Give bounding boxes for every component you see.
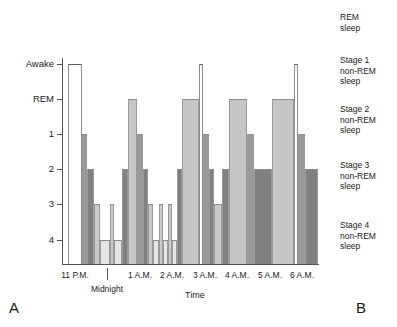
y-axis-tick <box>57 169 63 170</box>
y-axis-tick <box>57 64 63 65</box>
x-axis-line <box>62 264 319 265</box>
hypnogram-bar <box>114 240 122 264</box>
x-axis-title: Time <box>185 290 205 300</box>
x-axis-tick-midnight <box>107 268 108 280</box>
hypnogram-bar <box>298 134 305 264</box>
y-axis-label: 3 <box>49 199 54 209</box>
hypnogram-figure: AwakeREM1234 11 P.M.Midnight1 A.M.2 A.M.… <box>0 0 397 327</box>
panel-letter-a: A <box>9 300 19 316</box>
x-axis-label: 6 A.M. <box>278 270 326 280</box>
hypnogram-bar <box>87 169 94 264</box>
legend-label-stage-3: Stage 3 non-REM sleep <box>340 160 376 192</box>
panel-letter-b: B <box>356 300 366 316</box>
hypnogram-bar <box>247 134 254 264</box>
y-axis-label: Awake <box>26 59 54 69</box>
y-axis-tick <box>57 204 63 205</box>
hypnogram-bar <box>305 169 318 264</box>
legend-label-stage-2: Stage 2 non-REM sleep <box>340 104 376 136</box>
x-axis-label: 11 P.M. <box>51 270 99 280</box>
y-axis-label: 2 <box>49 164 54 174</box>
hypnogram-bar <box>272 99 294 264</box>
legend-label-rem-sleep: REM sleep <box>340 12 360 33</box>
x-axis-label: Midnight <box>83 284 131 294</box>
y-axis-tick <box>57 134 63 135</box>
y-axis-tick <box>57 99 63 100</box>
hypnogram-bar <box>222 169 229 264</box>
y-axis-label: REM <box>33 94 54 104</box>
hypnogram-bar <box>229 99 247 264</box>
hypnogram-bar <box>214 204 222 264</box>
hypnogram-bar <box>128 99 137 264</box>
hypnogram-bar <box>254 169 272 264</box>
y-axis-label: 4 <box>49 235 54 245</box>
hypnogram-bar <box>100 240 110 264</box>
plot-area <box>62 58 318 264</box>
hypnogram-bar <box>68 64 82 264</box>
legend-label-stage-1: Stage 1 non-REM sleep <box>340 55 376 87</box>
y-axis-label: 1 <box>49 129 54 139</box>
hypnogram-bar <box>182 99 199 264</box>
legend-label-stage-4: Stage 4 non-REM sleep <box>340 220 376 252</box>
y-axis-tick <box>57 240 63 241</box>
